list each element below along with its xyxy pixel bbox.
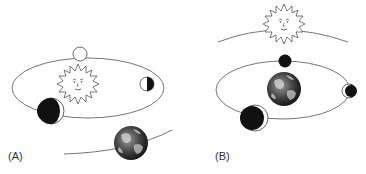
moon-phase-icon — [279, 55, 292, 68]
earth-globe-icon — [267, 72, 301, 106]
moon-phase-icon — [140, 77, 154, 91]
earth-globe-icon — [114, 126, 148, 160]
sun-face-icon — [263, 4, 305, 44]
panel-b-label: (B) — [215, 150, 230, 162]
moon-phase-icon — [73, 47, 87, 61]
moon-phase-icon — [342, 84, 357, 98]
panel-b — [216, 4, 357, 131]
moon-phase-icon — [240, 105, 268, 131]
panel-a — [12, 47, 172, 160]
sun-face-icon — [57, 64, 99, 104]
diagram-canvas — [0, 0, 366, 174]
moon-phase-icon — [37, 98, 64, 124]
panel-a-label: (A) — [8, 150, 23, 162]
